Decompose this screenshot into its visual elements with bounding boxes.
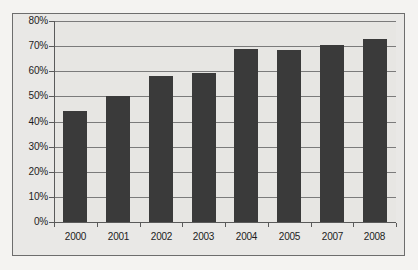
bar-2007 xyxy=(320,45,344,222)
x-axis-label-2004: 2004 xyxy=(225,231,268,243)
x-tick xyxy=(268,223,269,227)
bar-2000 xyxy=(63,111,87,222)
x-tick xyxy=(225,223,226,227)
x-tick xyxy=(182,223,183,227)
x-tick xyxy=(396,223,397,227)
y-axis-label: 30% xyxy=(12,142,48,152)
y-axis-label: 50% xyxy=(12,91,48,101)
bar-2003 xyxy=(192,73,216,222)
x-axis-label-2003: 2003 xyxy=(182,231,225,243)
bar-2008 xyxy=(363,39,387,222)
y-axis-label: 10% xyxy=(12,192,48,202)
x-tick xyxy=(311,223,312,227)
y-axis-label: 20% xyxy=(12,167,48,177)
bars-layer xyxy=(54,21,396,222)
x-tick xyxy=(97,223,98,227)
y-axis-labels: 0%10%20%30%40%50%60%70%80% xyxy=(8,0,48,243)
x-axis-ticks xyxy=(54,223,396,228)
bar-2005 xyxy=(277,50,301,222)
y-axis-label: 60% xyxy=(12,66,48,76)
y-axis-label: 40% xyxy=(12,117,48,127)
x-tick xyxy=(140,223,141,227)
bar-2004 xyxy=(234,49,258,222)
y-axis-label: 70% xyxy=(12,41,48,51)
y-axis-label: 0% xyxy=(12,217,48,227)
x-tick xyxy=(353,223,354,227)
bar-2001 xyxy=(106,96,130,222)
bar-chart-figure: 0%10%20%30%40%50%60%70%80% 2000200120022… xyxy=(0,0,418,270)
x-axis-label-2000: 2000 xyxy=(54,231,97,243)
x-axis-label-2007: 2007 xyxy=(311,231,354,243)
x-axis-label-2008: 2008 xyxy=(353,231,396,243)
x-axis-label-2002: 2002 xyxy=(140,231,183,243)
x-axis-labels: 20002001200220032004200520072008 xyxy=(54,231,396,247)
x-axis-label-2005: 2005 xyxy=(268,231,311,243)
x-axis-label-2001: 2001 xyxy=(97,231,140,243)
y-axis-label: 80% xyxy=(12,16,48,26)
x-tick xyxy=(54,223,55,227)
bar-2002 xyxy=(149,76,173,222)
